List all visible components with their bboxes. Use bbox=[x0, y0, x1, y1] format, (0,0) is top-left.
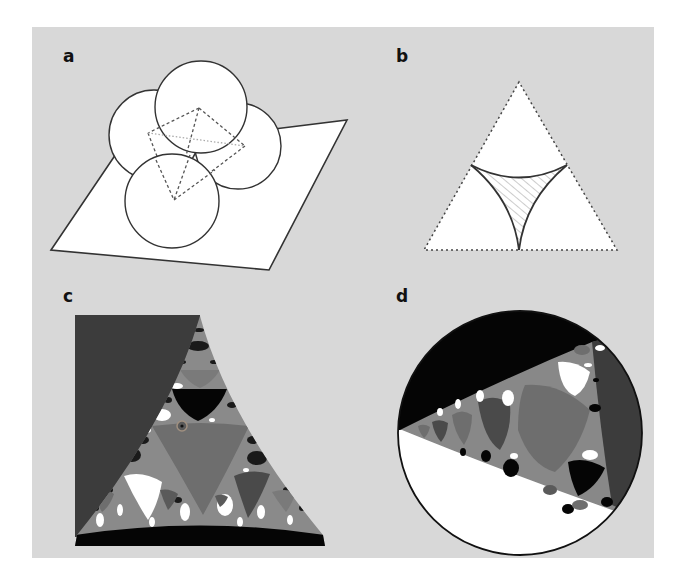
sphere-top bbox=[155, 61, 247, 153]
panel-d-fractal bbox=[395, 308, 645, 560]
panel-b-drawing bbox=[424, 82, 617, 250]
panel-c-fractal bbox=[70, 310, 330, 550]
panel-a-drawing bbox=[51, 61, 347, 270]
sphere-front bbox=[125, 154, 219, 248]
